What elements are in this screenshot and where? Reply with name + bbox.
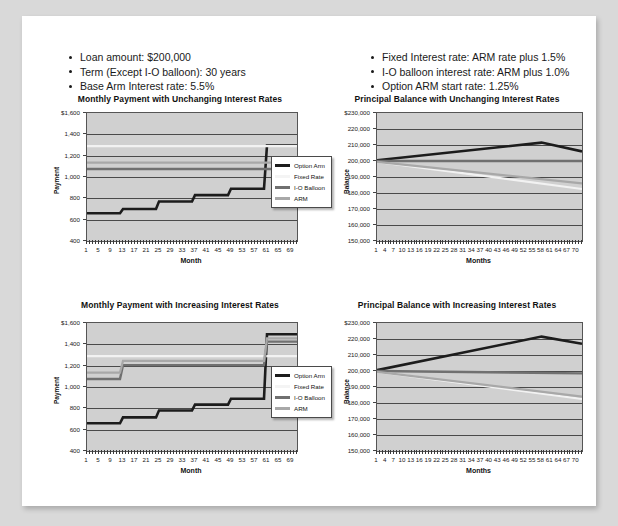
x-axis-tick-label: 25 [442,246,449,253]
x-axis-tick-label: 9 [108,246,111,253]
y-axis-tick-label: 160,000 [318,221,370,228]
y-axis-tick-label: 200,000 [318,157,370,164]
x-axis-tick-label: 13 [407,456,414,463]
x-axis-tick-label: 31 [459,456,466,463]
y-axis-tick-label: 600 [46,425,80,432]
x-axis-tick-label: 61 [263,246,270,253]
x-axis-tick-label: 52 [520,246,527,253]
y-axis-tick-mark [373,338,376,339]
y-axis-label: Payment [53,377,60,404]
y-axis-tick-mark [373,112,376,113]
x-axis-tick-label: 33 [179,246,186,253]
series-line [377,162,582,184]
x-axis-tick-label: 9 [108,456,111,463]
x-axis-tick-label: 61 [263,456,270,463]
y-axis-tick-label: 210,000 [318,141,370,148]
y-axis-tick-label: 150,000 [318,237,370,244]
y-axis-tick-label: 190,000 [318,383,370,390]
x-axis-tick-label: 4 [383,246,386,253]
y-axis-tick-label: 160,000 [318,431,370,438]
series-line [87,146,297,214]
y-axis-tick-mark [373,192,376,193]
y-axis-tick-label: 180,000 [318,189,370,196]
x-axis-label: Months [376,467,581,474]
assumptions-list-right: Fixed Interest rate: ARM rate plus 1.5%I… [370,50,569,94]
y-axis-tick-label: 210,000 [318,351,370,358]
x-axis-tick-label: 69 [287,456,294,463]
y-axis-tick-mark [83,343,86,344]
y-axis-tick-label: $230,000 [318,319,370,326]
y-axis-tick-label: 1,400 [46,340,80,347]
x-axis-tick-label: 34 [468,246,475,253]
y-axis-tick-mark [83,407,86,408]
page-background: Loan amount: $200,000Term (Except I-O ba… [0,0,618,526]
y-axis-tick-mark [83,429,86,430]
x-axis-tick-marks [376,450,581,454]
y-axis-tick-label: 1,000 [46,173,80,180]
chart-balance-increasing: Principal Balance with Increasing Intere… [318,300,596,490]
x-axis-tick-label: 67 [563,456,570,463]
y-axis-tick-label: 220,000 [318,335,370,342]
x-axis-tick-label: 28 [451,246,458,253]
y-axis-tick-mark [373,354,376,355]
x-axis-tick-label: 4 [383,456,386,463]
chart-payment-unchanging: Monthly Payment with Unchanging Interest… [46,94,314,272]
x-axis-tick-marks [376,240,581,244]
y-axis-tick-label: 170,000 [318,415,370,422]
x-axis-tick-label: 37 [476,246,483,253]
x-axis-tick-label: 55 [528,456,535,463]
x-axis-tick-label: 40 [485,456,492,463]
x-axis-tick-label: 25 [442,456,449,463]
x-axis-tick-label: 49 [511,456,518,463]
y-axis-tick-mark [373,208,376,209]
y-axis-tick-mark [373,434,376,435]
x-axis-tick-label: 19 [425,456,432,463]
plot-area [376,322,583,452]
x-axis-tick-label: 37 [191,456,198,463]
chart-balance-unchanging: Principal Balance with Unchanging Intere… [318,94,596,272]
x-axis-label: Month [86,257,296,264]
x-axis-tick-marks [86,240,296,244]
plot-wrapper: Balance150,000160,000170,000180,000190,0… [318,300,596,490]
y-axis-label: Payment [53,167,60,194]
y-axis-tick-label: 180,000 [318,399,370,406]
x-axis-label: Months [376,257,581,264]
legend-item-label: ARM [294,405,308,412]
y-axis-tick-mark [83,133,86,134]
y-axis-tick-label: 800 [46,194,80,201]
x-axis-tick-label: 70 [572,246,579,253]
y-axis-tick-mark [83,176,86,177]
y-axis-tick-label: $230,000 [318,109,370,116]
x-axis-tick-label: 53 [239,246,246,253]
x-axis-tick-label: 37 [191,246,198,253]
legend-swatch-icon [275,186,290,189]
y-axis-tick-label: 400 [46,237,80,244]
plot-area [86,112,298,242]
x-axis-tick-label: 33 [179,456,186,463]
x-axis-tick-label: 57 [251,246,258,253]
x-axis-tick-label: 25 [155,246,162,253]
x-axis-tick-label: 13 [119,456,126,463]
x-axis-tick-label: 16 [416,246,423,253]
x-axis-tick-label: 43 [494,456,501,463]
assumption-item: Fixed Interest rate: ARM rate plus 1.5% [370,50,569,65]
x-axis-tick-label: 28 [451,456,458,463]
x-axis-tick-label: 49 [227,456,234,463]
plot-area [376,112,583,242]
x-axis-tick-label: 64 [554,456,561,463]
x-axis-tick-label: 34 [468,456,475,463]
plot-wrapper: Balance150,000160,000170,000180,000190,0… [318,94,596,272]
x-axis-tick-label: 25 [155,456,162,463]
x-axis-tick-label: 31 [459,246,466,253]
x-axis-tick-label: 1 [84,456,87,463]
series-line [377,143,582,161]
legend-swatch-icon [275,374,290,377]
y-axis-tick-label: 800 [46,404,80,411]
x-axis-tick-label: 65 [275,456,282,463]
plot-wrapper: Payment4006008001,0001,2001,400$1,600159… [46,94,314,272]
assumption-item: Option ARM start rate: 1.25% [370,79,569,94]
legend-swatch-icon [275,407,290,410]
assumption-item: Loan amount: $200,000 [68,50,246,65]
legend-swatch-icon [275,396,290,399]
y-axis-tick-label: 220,000 [318,125,370,132]
